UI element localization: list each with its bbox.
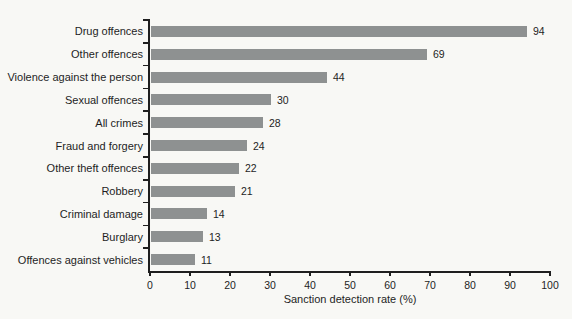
x-tick (149, 271, 151, 276)
y-tick (143, 110, 149, 112)
bar-chart-figure: Drug offences94Other offences69Violence … (0, 0, 572, 319)
bar-value-label: 14 (213, 207, 225, 221)
x-tick-label: 70 (414, 279, 446, 291)
y-axis-line (148, 19, 150, 273)
y-tick (143, 19, 149, 21)
category-label: Other theft offences (47, 161, 143, 175)
y-tick (143, 42, 149, 44)
x-tick-label: 10 (174, 279, 206, 291)
x-tick (469, 271, 471, 276)
bar-value-label: 11 (201, 253, 212, 267)
category-label: Violence against the person (7, 70, 143, 84)
bar (151, 26, 527, 37)
bar (151, 231, 203, 242)
y-tick (143, 202, 149, 204)
bar (151, 94, 271, 105)
x-tick-label: 50 (334, 279, 366, 291)
category-label: Drug offences (75, 24, 143, 38)
y-tick (143, 133, 149, 135)
x-tick-label: 80 (454, 279, 486, 291)
bar-value-label: 24 (253, 139, 265, 153)
y-tick (143, 225, 149, 227)
bar (151, 72, 327, 83)
x-tick (229, 271, 231, 276)
bar (151, 254, 195, 265)
x-tick-label: 40 (294, 279, 326, 291)
x-tick (389, 271, 391, 276)
category-label: Sexual offences (65, 93, 143, 107)
y-tick (143, 156, 149, 158)
x-tick (189, 271, 191, 276)
bar-value-label: 13 (209, 230, 221, 244)
x-tick-label: 90 (494, 279, 526, 291)
category-label: All crimes (95, 116, 143, 130)
y-tick (143, 247, 149, 249)
bar (151, 140, 247, 151)
category-label: Fraud and forgery (56, 139, 143, 153)
x-tick (549, 271, 551, 276)
x-tick (429, 271, 431, 276)
category-label: Other offences (71, 47, 143, 61)
x-tick-label: 60 (374, 279, 406, 291)
x-tick-label: 20 (214, 279, 246, 291)
bar-value-label: 21 (241, 184, 253, 198)
x-axis-title: Sanction detection rate (%) (150, 292, 550, 306)
x-tick-label: 0 (134, 279, 166, 291)
y-tick (143, 65, 149, 67)
bar-value-label: 28 (269, 116, 281, 130)
x-tick (349, 271, 351, 276)
bar (151, 163, 239, 174)
bar (151, 208, 207, 219)
bar (151, 117, 263, 128)
bar (151, 186, 235, 197)
x-tick (269, 271, 271, 276)
category-label: Robbery (101, 184, 143, 198)
category-label: Criminal damage (60, 207, 143, 221)
x-tick-label: 100 (534, 279, 566, 291)
category-label: Burglary (102, 230, 143, 244)
x-tick (509, 271, 511, 276)
x-tick-label: 30 (254, 279, 286, 291)
bar (151, 49, 427, 60)
bar-value-label: 30 (277, 93, 289, 107)
y-tick (143, 179, 149, 181)
bar-value-label: 44 (333, 70, 345, 84)
bar-value-label: 69 (433, 47, 445, 61)
category-label: Offences against vehicles (18, 253, 143, 267)
bar-value-label: 94 (533, 24, 545, 38)
bar-value-label: 22 (245, 161, 257, 175)
y-tick (143, 88, 149, 90)
x-tick (309, 271, 311, 276)
